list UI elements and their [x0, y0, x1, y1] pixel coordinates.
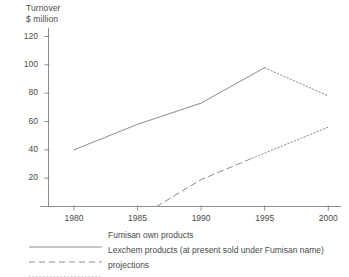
data-series-line	[252, 127, 328, 158]
legend-line-sample	[29, 249, 102, 251]
turnover-line-chart: Turnover $ million 20406080100120 198019…	[0, 0, 349, 277]
axis-spines	[40, 28, 341, 207]
y-axis-tick-label: 60	[12, 116, 38, 126]
y-axis-tick-label: 120	[12, 31, 38, 41]
legend-item: Lexchem products (at present sold under …	[0, 243, 349, 258]
legend-line-sample	[29, 234, 102, 236]
legend-item: projections	[0, 258, 349, 273]
x-axis-tick-label: 1990	[184, 213, 218, 223]
legend-item: Fumisan own products	[0, 228, 349, 243]
legend-item-label: Lexchem products (at present sold under …	[108, 243, 324, 257]
x-axis-tick-label: 2000	[311, 213, 345, 223]
legend-line-sample	[29, 264, 102, 266]
y-axis-tick-label: 100	[12, 59, 38, 69]
y-axis-tick-label: 40	[12, 144, 38, 154]
legend-item-label: Fumisan own products	[108, 228, 194, 242]
y-axis-tick-label: 80	[12, 87, 38, 97]
x-axis-tick-label: 1995	[248, 213, 282, 223]
legend-item-label: projections	[108, 258, 149, 272]
data-series-line	[265, 68, 329, 96]
x-axis-tick-label: 1985	[121, 213, 155, 223]
x-axis-tick-label: 1980	[57, 213, 91, 223]
data-series-group	[74, 68, 328, 207]
chart-legend: Fumisan own productsLexchem products (at…	[0, 228, 349, 273]
data-series-line	[74, 68, 265, 150]
y-axis-tick-label: 20	[12, 172, 38, 182]
data-series-line	[157, 158, 252, 206]
